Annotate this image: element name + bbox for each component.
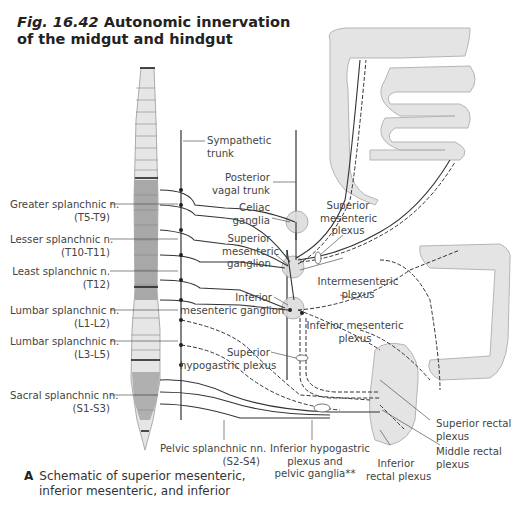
label-name: Lumbar splanchnic n. [10,305,119,316]
label-intermesenteric-plexus: Intermesenteric plexus [313,276,403,301]
label-name: Sacral splanchnic nn. [10,390,118,401]
label-superior-hypogastric-plexus: Superior hypogastric plexus [180,347,270,372]
label-levels: (L3-L5) [74,349,110,360]
caption-line1: Schematic of superior mesenteric, [39,469,245,483]
label-line: ganglia [232,215,270,226]
label-posterior-vagal-trunk: Posterior vagal trunk [200,172,270,197]
label-superior-rectal-plexus: Superior rectal plexus [436,418,511,443]
label-line: Celiac [239,202,270,213]
label-middle-rectal-plexus: Middle rectal plexus [436,446,502,471]
label-levels: (T5-T9) [74,212,110,223]
caption-letter: A [24,469,33,483]
label-line: ganglion [227,258,271,269]
label-superior-mesenteric-plexus: Superior mesenteric plexus [320,200,376,238]
label-line: Superior [227,233,270,244]
label-line: (S2-S4) [222,456,260,467]
label-line: Posterior [225,172,270,183]
label-least-splanchnic: Least splanchnic n. (T12) [10,266,110,291]
label-line: rectal plexus [366,471,431,482]
label-line: mesenteric ganglion [180,305,284,316]
label-inferior-mesenteric-plexus: Inferior mesenteric plexus [305,320,405,345]
label-name: Lesser splanchnic n. [10,234,113,245]
label-sacral-splanchnic: Sacral splanchnic nn. (S1-S3) [10,390,110,415]
superior-mesenteric-plexus-marker [315,252,321,264]
label-pelvic-splanchnic: Pelvic splanchnic nn. (S2-S4) [160,443,260,468]
label-levels: (S1-S3) [72,403,110,414]
label-lumbar-splanchnic-l3-l5: Lumbar splanchnic n. (L3-L5) [10,336,110,361]
label-line: plexus [331,225,364,236]
label-line: plexus [436,431,469,442]
label-lumbar-splanchnic-l1-l2: Lumbar splanchnic n. (L1-L2) [10,305,110,330]
label-line: Superior [227,347,270,358]
label-line: mesenteric [222,246,279,257]
label-name: Greater splanchnic n. [10,199,119,210]
label-levels: (L1-L2) [74,318,110,329]
label-line: hypogastric plexus [180,360,276,371]
label-inferior-hypogastric-plexus: Inferior hypogastric plexus and pelvic g… [270,443,360,481]
label-line: mesenteric [320,213,377,224]
label-name: Lumbar splanchnic n. [10,336,119,347]
label-greater-splanchnic: Greater splanchnic n. (T5-T9) [10,199,110,224]
label-line: Sympathetic [207,135,271,146]
label-line: Inferior [378,458,415,469]
label-line: Superior rectal [436,418,511,429]
label-line: Middle rectal [436,446,502,457]
label-levels: (T12) [83,279,110,290]
label-line: Pelvic splanchnic nn. [160,443,266,454]
label-levels: (T10-T11) [61,247,110,258]
label-line: vagal trunk [212,185,270,196]
label-line: plexus [436,459,469,470]
label-sympathetic-trunk: Sympathetic trunk [207,135,271,160]
figure-caption: ASchematic of superior mesenteric, infer… [24,469,246,499]
label-line: Superior [326,200,369,211]
label-line: Inferior mesenteric [306,320,403,331]
label-line: Inferior [235,292,272,303]
label-line: trunk [207,148,234,159]
label-line: pelvic ganglia** [275,468,356,479]
spinal-cord [131,68,160,450]
label-inferior-mesenteric-ganglion: Inferior mesenteric ganglion [180,292,272,317]
label-celiac-ganglia: Celiac ganglia [220,202,270,227]
label-lesser-splanchnic: Lesser splanchnic n. (T10-T11) [10,234,110,259]
caption-line2: inferior mesenteric, and inferior [39,484,230,498]
label-line: plexus [341,289,374,300]
label-line: plexus [338,333,371,344]
label-line: Inferior hypogastric [270,443,370,454]
label-line: plexus and [287,456,343,467]
label-superior-mesenteric-ganglion: Superior mesenteric ganglion [222,233,276,271]
label-name: Least splanchnic n. [12,266,110,277]
label-line: Intermesenteric [318,276,399,287]
inferior-hypogastric-plexus-marker [314,404,330,412]
superior-hypogastric-plexus-marker [296,355,308,361]
inferior-mesenteric-ganglion-shape [282,297,304,319]
label-inferior-rectal-plexus: Inferior rectal plexus [366,458,426,483]
